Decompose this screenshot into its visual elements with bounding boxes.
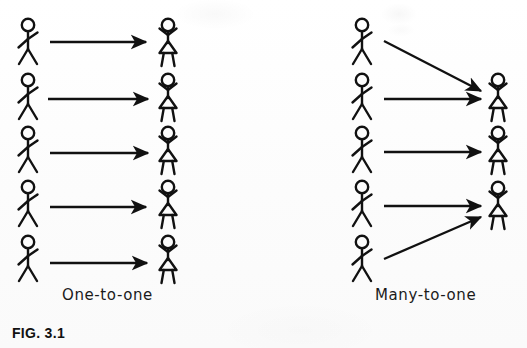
- arrow-group-many-to-one: [384, 41, 481, 259]
- mapping-arrow-diagonal: [384, 41, 481, 91]
- male-stick-figure: [353, 19, 372, 64]
- male-stick-figure: [19, 19, 38, 64]
- male-stick-figure: [353, 181, 372, 226]
- arrow-group-one-to-one: [48, 42, 148, 263]
- male-stick-figure: [353, 236, 372, 281]
- female-stick-figure: [160, 181, 177, 228]
- male-stick-figure: [19, 236, 38, 281]
- female-stick-figure: [160, 19, 177, 66]
- panel-many-to-one: [353, 19, 507, 281]
- mapping-arrow-diagonal: [384, 217, 481, 259]
- female-stick-figure: [160, 74, 177, 121]
- panel-one-to-one: [19, 19, 177, 283]
- male-stick-figure: [19, 181, 38, 226]
- figure-number-label: FIG. 3.1: [12, 325, 65, 341]
- male-stick-figure: [353, 74, 372, 119]
- target-column-one-to-one: [160, 19, 177, 283]
- female-stick-figure: [490, 127, 507, 174]
- target-column-many-to-one: [490, 74, 507, 229]
- source-column-many-to-one: [353, 19, 372, 281]
- male-stick-figure: [19, 74, 38, 119]
- male-stick-figure: [19, 127, 38, 172]
- female-stick-figure: [490, 182, 507, 229]
- source-column-one-to-one: [19, 19, 38, 281]
- female-stick-figure: [160, 127, 177, 174]
- panel-caption-many-to-one: Many-to-one: [375, 286, 476, 304]
- female-stick-figure: [160, 236, 177, 283]
- figure-page: One-to-one Many-to-one FIG. 3.1: [0, 0, 527, 348]
- female-stick-figure: [490, 74, 507, 121]
- male-stick-figure: [353, 127, 372, 172]
- panel-caption-one-to-one: One-to-one: [62, 286, 153, 304]
